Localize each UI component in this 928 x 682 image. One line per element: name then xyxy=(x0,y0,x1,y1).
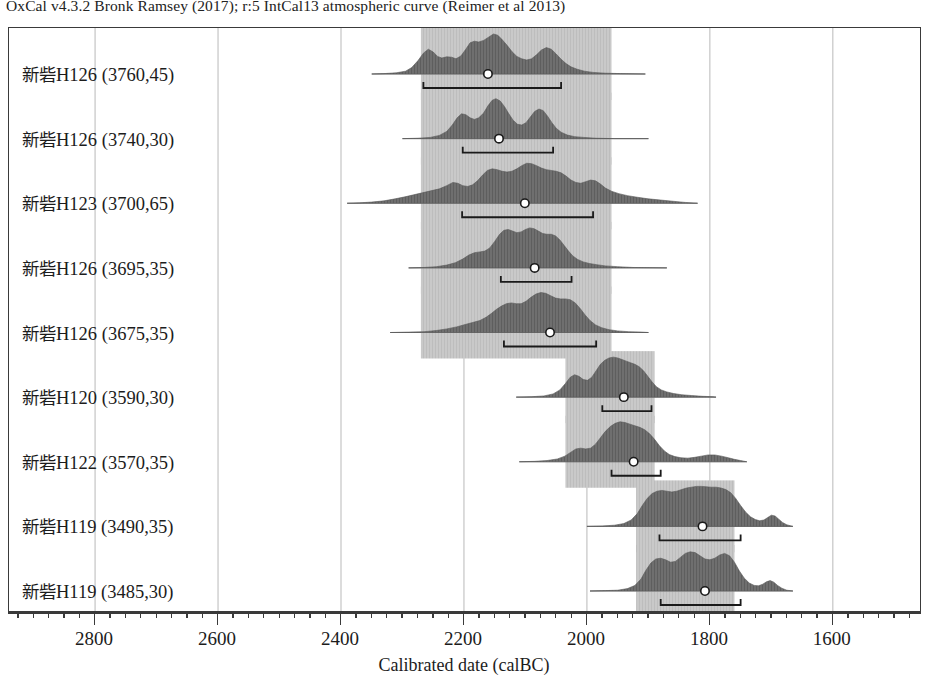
row-label: 新砦H126 (3675,35) xyxy=(22,319,174,344)
x-axis-minor-tick xyxy=(202,612,203,618)
median-marker xyxy=(530,264,538,272)
x-axis xyxy=(8,612,921,626)
x-axis-minor-tick xyxy=(248,612,249,618)
x-axis-minor-tick xyxy=(509,612,510,618)
x-axis-tick-label: 2400 xyxy=(321,628,359,650)
row-label: 新砦H122 (3570,35) xyxy=(22,448,174,473)
x-axis-minor-tick xyxy=(663,612,664,618)
row-label: 新砦H119 (3485,30) xyxy=(22,578,174,603)
oxcal-plot-page: OxCal v4.3.2 Bronk Ramsey (2017); r:5 In… xyxy=(0,0,928,682)
x-axis-minor-tick xyxy=(232,612,233,618)
x-axis-minor-tick xyxy=(786,612,787,618)
x-axis-minor-tick xyxy=(17,612,18,618)
oxcal-header-title: OxCal v4.3.2 Bronk Ramsey (2017); r:5 In… xyxy=(6,0,565,15)
x-axis-major-tick xyxy=(463,612,464,625)
x-axis-minor-tick xyxy=(140,612,141,618)
median-marker xyxy=(521,199,529,207)
x-axis-minor-tick xyxy=(309,612,310,618)
x-axis-minor-tick xyxy=(494,612,495,618)
probability-curve xyxy=(516,357,716,397)
x-axis-minor-tick xyxy=(386,612,387,618)
x-axis-line xyxy=(8,612,921,614)
median-marker xyxy=(701,587,709,595)
x-axis-minor-tick xyxy=(33,612,34,618)
median-marker xyxy=(698,522,706,530)
median-marker xyxy=(495,134,503,142)
x-axis-minor-tick xyxy=(401,612,402,618)
x-axis-minor-tick xyxy=(893,612,894,618)
x-axis-minor-tick xyxy=(417,612,418,618)
row-label-measurement: H126 (3740,30) xyxy=(56,129,174,149)
x-axis-minor-tick xyxy=(478,612,479,618)
x-axis-major-tick xyxy=(709,612,710,625)
row-label-site: 新砦 xyxy=(22,194,56,214)
x-axis-minor-tick xyxy=(863,612,864,618)
x-axis-minor-tick xyxy=(63,612,64,618)
x-axis-major-tick xyxy=(94,612,95,625)
row-label: 新砦H120 (3590,30) xyxy=(22,384,174,409)
median-marker xyxy=(484,70,492,78)
row-label-site: 新砦 xyxy=(22,65,56,85)
x-axis-minor-tick xyxy=(601,612,602,618)
x-axis-minor-tick xyxy=(801,612,802,618)
x-axis-minor-tick xyxy=(770,612,771,618)
x-axis-major-tick xyxy=(340,612,341,625)
x-axis-minor-tick xyxy=(325,612,326,618)
row-label-site: 新砦 xyxy=(22,323,56,343)
row-label-measurement: H120 (3590,30) xyxy=(56,388,174,408)
x-axis-tick-label: 1800 xyxy=(690,628,728,650)
row-label-site: 新砦 xyxy=(22,388,56,408)
x-axis-minor-tick xyxy=(847,612,848,618)
row-label-measurement: H119 (3490,35) xyxy=(56,517,174,537)
row-label: 新砦H126 (3695,35) xyxy=(22,254,174,279)
probability-curve xyxy=(587,486,793,526)
x-axis-minor-tick xyxy=(694,612,695,618)
x-axis-minor-tick xyxy=(156,612,157,618)
x-axis-major-tick xyxy=(832,612,833,625)
x-axis-minor-tick xyxy=(125,612,126,618)
x-axis-minor-tick xyxy=(724,612,725,618)
x-axis-minor-tick xyxy=(48,612,49,618)
median-marker xyxy=(629,458,637,466)
x-axis-minor-tick xyxy=(571,612,572,618)
probability-curve xyxy=(347,163,697,203)
x-axis-minor-tick xyxy=(816,612,817,618)
x-axis-minor-tick xyxy=(617,612,618,618)
x-axis-minor-tick xyxy=(294,612,295,618)
probability-curve xyxy=(519,422,746,462)
x-axis-major-tick xyxy=(217,612,218,625)
x-axis-minor-tick xyxy=(355,612,356,618)
x-axis-minor-tick xyxy=(632,612,633,618)
row-label-site: 新砦 xyxy=(22,582,56,602)
x-axis-minor-tick xyxy=(740,612,741,618)
row-label: 新砦H126 (3740,30) xyxy=(22,125,174,150)
median-marker xyxy=(620,393,628,401)
x-axis-minor-tick xyxy=(109,612,110,618)
x-axis-minor-tick xyxy=(909,612,910,618)
x-axis-minor-tick xyxy=(263,612,264,618)
x-axis-tick-label: 2800 xyxy=(75,628,113,650)
row-label-measurement: H126 (3760,45) xyxy=(56,65,174,85)
x-axis-minor-tick xyxy=(186,612,187,618)
x-axis-minor-tick xyxy=(755,612,756,618)
row-label: 新砦H123 (3700,65) xyxy=(22,190,174,215)
x-axis-tick-label: 2000 xyxy=(567,628,605,650)
row-label-measurement: H123 (3700,65) xyxy=(56,194,174,214)
row-label-measurement: H122 (3570,35) xyxy=(56,452,174,472)
x-axis-minor-tick xyxy=(555,612,556,618)
x-axis-minor-tick xyxy=(371,612,372,618)
row-label-measurement: H119 (3485,30) xyxy=(56,582,174,602)
x-axis-minor-tick xyxy=(524,612,525,618)
row-label-measurement: H126 (3675,35) xyxy=(56,323,174,343)
row-label-site: 新砦 xyxy=(22,452,56,472)
x-axis-minor-tick xyxy=(647,612,648,618)
x-axis-minor-tick xyxy=(171,612,172,618)
x-axis-minor-tick xyxy=(79,612,80,618)
x-axis-minor-tick xyxy=(678,612,679,618)
row-label: 新砦H126 (3760,45) xyxy=(22,61,174,86)
x-axis-tick-label: 2600 xyxy=(198,628,236,650)
row-label-site: 新砦 xyxy=(22,129,56,149)
x-axis-tick-label: 2200 xyxy=(444,628,482,650)
x-axis-tick-label: 1600 xyxy=(813,628,851,650)
row-label-measurement: H126 (3695,35) xyxy=(56,258,174,278)
